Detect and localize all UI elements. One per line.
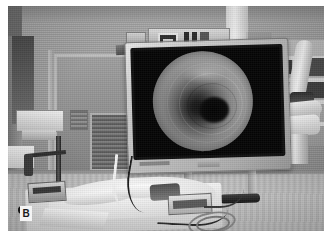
- iv-pole-tray-lower: [22, 130, 56, 140]
- iv-pole-hanger: [24, 154, 33, 176]
- monitor-screen: [133, 47, 282, 157]
- table-control-panel: [27, 181, 66, 204]
- endoscopic-image: [151, 50, 254, 153]
- panel-letter-label: B: [20, 206, 32, 221]
- endoscopy-monitor: [124, 38, 292, 175]
- wall-corner-left-shadow: [8, 6, 22, 36]
- monitor-stand-neck: [197, 159, 219, 168]
- figure-panel-b: B: [0, 0, 333, 240]
- operating-room-photograph: [8, 6, 324, 231]
- wall-upper-band: [8, 6, 324, 22]
- wall-vent: [70, 110, 88, 130]
- iv-pole-tray: [16, 110, 64, 132]
